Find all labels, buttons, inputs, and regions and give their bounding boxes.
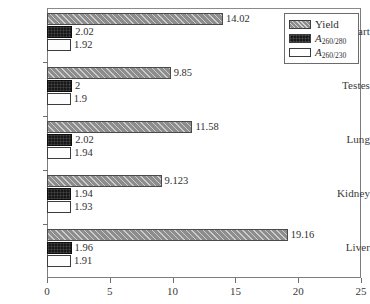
x-tick-label-5: 5 — [107, 286, 113, 297]
bar-value-kidney-yield: 9.123 — [165, 176, 189, 187]
bar-kidney-yield — [47, 175, 162, 187]
legend-label-a260-230-base: A — [315, 46, 322, 58]
legend-item-a260-280: A260/280 — [289, 32, 354, 45]
category-label-lung: Lung — [326, 134, 370, 145]
legend-label-a260-230: A260/230 — [315, 47, 346, 59]
bar-value-liver-yield: 19.16 — [291, 230, 315, 241]
legend-label-a260-230-sub: 260/230 — [322, 51, 347, 60]
legend-item-a260-230: A260/230 — [289, 46, 354, 59]
x-tick-mark-10 — [173, 278, 174, 283]
legend-swatch-a260-280 — [289, 34, 311, 43]
legend-label-a260-280-sub: 260/280 — [322, 37, 347, 46]
bar-liver-a280 — [47, 242, 72, 254]
legend-swatch-a260-230 — [289, 48, 311, 57]
legend-label-a260-280-base: A — [315, 32, 322, 44]
bar-liver-a230 — [47, 255, 71, 267]
bar-value-kidney-a230: 1.93 — [74, 202, 92, 213]
legend-label-a260-280: A260/280 — [315, 33, 346, 45]
bar-liver-yield — [47, 229, 288, 241]
bar-value-lung-a280: 2.02 — [75, 135, 93, 146]
category-label-kidney: Kidney — [326, 188, 370, 199]
bar-heart-yield — [47, 13, 223, 25]
category-label-liver: Liver — [326, 242, 370, 253]
x-tick-mark-15 — [235, 278, 236, 283]
x-tick-label-0: 0 — [44, 286, 50, 297]
bar-value-liver-a280: 1.96 — [75, 243, 93, 254]
bar-testes-a280 — [47, 80, 72, 92]
bar-testes-yield — [47, 67, 171, 79]
y-tick-mark — [43, 62, 48, 63]
bar-value-testes-a280: 2 — [75, 81, 80, 92]
bar-value-heart-a280: 2.02 — [75, 27, 93, 38]
bar-value-testes-yield: 9.85 — [174, 68, 192, 79]
x-tick-label-20: 20 — [293, 286, 304, 297]
bar-value-liver-a230: 1.91 — [74, 256, 92, 267]
bar-heart-a280 — [47, 26, 72, 38]
y-tick-mark — [43, 116, 48, 117]
bar-kidney-a280 — [47, 188, 71, 200]
bar-lung-a230 — [47, 147, 71, 159]
x-tick-mark-0 — [47, 278, 48, 283]
chart-legend: Yield A260/280 A260/230 — [284, 13, 359, 64]
x-tick-label-10: 10 — [167, 286, 178, 297]
x-tick-mark-5 — [110, 278, 111, 283]
legend-swatch-yield — [289, 20, 311, 29]
x-tick-mark-20 — [298, 278, 299, 283]
bar-lung-a280 — [47, 134, 72, 146]
bar-value-heart-a230: 1.92 — [74, 40, 92, 51]
bar-value-heart-yield: 14.02 — [226, 14, 250, 25]
y-tick-mark — [43, 224, 48, 225]
x-tick-mark-25 — [361, 278, 362, 283]
bar-lung-yield — [47, 121, 192, 133]
x-tick-label-25: 25 — [356, 286, 367, 297]
y-tick-mark — [43, 170, 48, 171]
bar-value-lung-yield: 11.58 — [195, 122, 218, 133]
bar-heart-a230 — [47, 39, 71, 51]
bar-value-kidney-a280: 1.94 — [74, 189, 92, 200]
bar-kidney-a230 — [47, 201, 71, 213]
legend-item-yield: Yield — [289, 18, 354, 31]
bar-testes-a230 — [47, 93, 71, 105]
category-label-testes: Testes — [326, 80, 370, 91]
bar-value-lung-a230: 1.94 — [74, 148, 92, 159]
x-tick-label-15: 15 — [230, 286, 241, 297]
bar-chart: HeartTestesLungKidneyLiver 14.022.021.92… — [0, 0, 370, 304]
bar-value-testes-a230: 1.9 — [74, 94, 87, 105]
legend-label-yield: Yield — [315, 19, 339, 30]
